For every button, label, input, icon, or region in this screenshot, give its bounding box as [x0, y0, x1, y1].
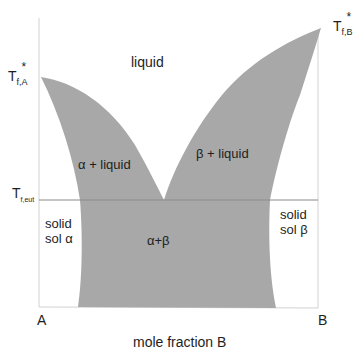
alpha-liquid-region: [41, 77, 164, 200]
alpha-beta-region: [78, 200, 276, 308]
region-label-beta-liquid: β + liquid: [196, 146, 249, 161]
region-label-solid-alpha-2: sol α: [45, 231, 73, 246]
x-axis-label: mole fraction B: [133, 335, 226, 350]
region-label-liquid: liquid: [131, 55, 164, 70]
temp-label-tf-eut: Tf,eut: [12, 185, 34, 203]
region-label-alpha-beta: α+β: [147, 233, 170, 248]
phase-diagram-canvas: [0, 0, 362, 356]
region-label-alpha-liquid: α + liquid: [78, 157, 131, 172]
region-label-solid-beta-1: solid: [280, 207, 307, 222]
temp-label-tf-b: Tf,B*: [333, 14, 351, 37]
beta-liquid-region: [164, 28, 321, 200]
temp-label-tf-a: Tf,A*: [8, 64, 26, 87]
axis-end-label-a: A: [37, 313, 46, 328]
region-label-solid-beta-2: sol β: [280, 222, 308, 237]
axis-end-label-b: B: [318, 313, 327, 328]
region-label-solid-alpha-1: solid: [45, 216, 72, 231]
